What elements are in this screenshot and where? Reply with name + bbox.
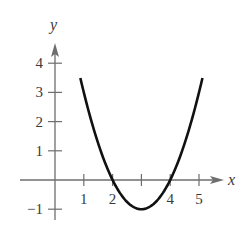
y-tick-label: −1 xyxy=(27,201,43,217)
y-tick-label: 1 xyxy=(36,143,44,159)
parabola-chart: 1245−11234 x y xyxy=(0,0,249,231)
y-tick-label: 4 xyxy=(36,55,44,71)
x-axis-label: x xyxy=(227,171,235,188)
x-tick-label: 1 xyxy=(80,191,88,207)
parabola-curve xyxy=(80,78,202,209)
y-tick-label: 3 xyxy=(36,84,44,100)
x-tick-label: 5 xyxy=(195,191,203,207)
ticks xyxy=(48,63,199,209)
y-tick-label: 2 xyxy=(36,114,44,130)
y-axis-label: y xyxy=(48,16,58,34)
axes xyxy=(20,43,224,220)
x-tick-label: 2 xyxy=(109,191,117,207)
tick-labels: 1245−11234 xyxy=(27,55,203,217)
x-tick-label: 4 xyxy=(166,191,174,207)
